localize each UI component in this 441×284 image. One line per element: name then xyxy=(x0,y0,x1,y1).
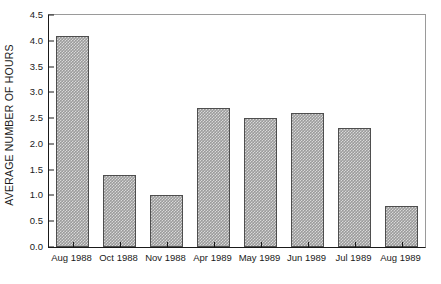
x-tick-label: Jun 1989 xyxy=(287,253,326,263)
bar-nov-1988 xyxy=(150,195,183,247)
x-tick-mark xyxy=(308,242,309,247)
bar-apr-1989 xyxy=(197,108,230,247)
y-tick-label: 3.5 xyxy=(30,62,49,72)
y-tick-label: 2.0 xyxy=(30,139,49,149)
y-tick-label: 4.0 xyxy=(30,36,49,46)
x-tick-mark xyxy=(167,242,168,247)
y-axis-title-label: AVERAGE NUMBER OF HOURS xyxy=(3,44,15,205)
y-tick-label: 4.5 xyxy=(30,10,49,20)
y-tick-label: 0.0 xyxy=(30,242,49,252)
y-axis-title: AVERAGE NUMBER OF HOURS xyxy=(0,0,18,250)
x-tick-label: Apr 1989 xyxy=(193,253,232,263)
x-tick-mark xyxy=(214,242,215,247)
x-tick-label: Jul 1989 xyxy=(336,253,372,263)
x-tick-label: May 1989 xyxy=(239,253,281,263)
plot-area: 0.00.51.01.52.02.53.03.54.04.5 xyxy=(48,14,426,248)
bar-chart-figure: AVERAGE NUMBER OF HOURS 0.00.51.01.52.02… xyxy=(0,0,441,284)
x-tick-label: Aug 1989 xyxy=(380,253,421,263)
x-tick-label: Oct 1988 xyxy=(99,253,138,263)
y-tick-label: 1.5 xyxy=(30,165,49,175)
bar-aug-1988 xyxy=(56,36,89,247)
x-tick-label: Aug 1988 xyxy=(51,253,92,263)
y-tick-label: 0.5 xyxy=(30,216,49,226)
x-tick-mark xyxy=(261,242,262,247)
bar-jul-1989 xyxy=(338,128,371,247)
bar-oct-1988 xyxy=(103,175,136,247)
bar-aug-1989 xyxy=(385,206,418,247)
y-tick-label: 2.5 xyxy=(30,113,49,123)
bar-may-1989 xyxy=(244,118,277,247)
x-tick-mark xyxy=(355,242,356,247)
x-tick-label: Nov 1988 xyxy=(145,253,186,263)
x-tick-mark xyxy=(402,242,403,247)
y-tick-label: 1.0 xyxy=(30,191,49,201)
y-tick-label: 3.0 xyxy=(30,88,49,98)
x-tick-mark xyxy=(120,242,121,247)
bars-layer xyxy=(49,15,425,247)
bar-jun-1989 xyxy=(291,113,324,247)
x-tick-mark xyxy=(73,242,74,247)
